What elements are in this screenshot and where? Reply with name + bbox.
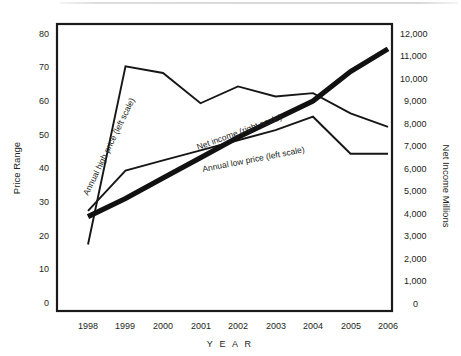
left-axis-title: Price Range <box>11 142 22 194</box>
x-tick-2000: 2000 <box>153 321 173 331</box>
chart-figure: 80 70 60 50 40 30 20 10 0 Price Range 12… <box>0 0 461 356</box>
price-and-net-income-chart: 80 70 60 50 40 30 20 10 0 Price Range 12… <box>0 0 461 356</box>
right-axis-ticks: 12,000 11,000 10,000 9,000 8,000 7,000 6… <box>400 29 428 309</box>
x-axis-ticks: 1998 1999 2000 2001 2002 2003 2004 2005 … <box>78 321 398 331</box>
right-tick-12000: 12,000 <box>400 29 428 39</box>
x-axis-title: Y E A R <box>207 339 253 349</box>
x-tick-1999: 1999 <box>115 321 135 331</box>
x-tick-2004: 2004 <box>303 321 323 331</box>
left-tick-70: 70 <box>39 62 49 72</box>
right-tick-9000: 9,000 <box>404 96 427 106</box>
x-tick-1998: 1998 <box>78 321 98 331</box>
left-tick-30: 30 <box>39 197 49 207</box>
right-axis-title: Net Income Millions <box>441 145 452 228</box>
left-tick-0: 0 <box>44 298 49 308</box>
left-tick-50: 50 <box>39 130 49 140</box>
series-label-annual-high-price: Annual high price (left scale) <box>81 96 137 197</box>
x-tick-2006: 2006 <box>378 321 398 331</box>
left-axis-ticks: 80 70 60 50 40 30 20 10 0 <box>39 29 49 308</box>
right-tick-3000: 3,000 <box>404 231 427 241</box>
left-tick-40: 40 <box>39 163 49 173</box>
left-tick-10: 10 <box>39 264 49 274</box>
right-tick-11000: 11,000 <box>400 51 427 61</box>
right-tick-4000: 4,000 <box>404 209 427 219</box>
left-tick-60: 60 <box>39 96 49 106</box>
x-tick-2001: 2001 <box>191 321 211 331</box>
left-tick-80: 80 <box>39 29 49 39</box>
right-tick-10000: 10,000 <box>400 74 428 84</box>
x-tick-2002: 2002 <box>228 321 248 331</box>
right-tick-2000: 2,000 <box>404 254 427 264</box>
right-tick-7000: 7,000 <box>404 141 427 151</box>
right-tick-6000: 6,000 <box>404 164 427 174</box>
x-tick-2003: 2003 <box>266 321 286 331</box>
x-tick-2005: 2005 <box>341 321 361 331</box>
right-tick-0: 0 <box>413 299 418 309</box>
right-tick-8000: 8,000 <box>404 119 427 129</box>
right-tick-1000: 1,000 <box>404 276 427 286</box>
series-line-annual-high-price <box>88 66 388 244</box>
right-tick-5000: 5,000 <box>404 186 427 196</box>
left-tick-20: 20 <box>39 231 49 241</box>
